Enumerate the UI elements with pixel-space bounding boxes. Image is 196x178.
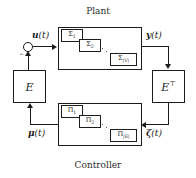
incidence-matrix-label: E [14,80,45,93]
plant-block[interactable]: Σ1 Σ2 Σ|V| [58,27,142,70]
incidence-transpose-base: E [161,80,169,93]
arrow-ET-input [165,64,171,69]
controller-title: Controller [0,160,196,170]
line-corner-to-controller [146,124,169,125]
controller-subsystem-n[interactable]: Π|E| [110,129,137,142]
controller-subsystem-n-label: Π|E| [117,131,129,140]
line-ET-to-corner [168,103,169,124]
controller-subsystem-2-subscript: 2 [91,120,94,125]
line-corner-to-E [30,108,31,125]
arrow-E-input [27,103,33,108]
incidence-transpose-block[interactable]: E⊤ [152,70,185,103]
line-junction-to-plant [33,46,53,47]
controller-subsystem-n-subscript: |E| [123,134,129,139]
line-plant-to-corner [142,46,168,47]
signal-y-arg: (t) [151,30,162,40]
incidence-transpose-label: E⊤ [153,80,184,94]
plant-subsystem-1-subscript: 1 [73,34,76,39]
line-corner-to-ET [168,46,169,65]
plant-subsystem-2-label: Σ2 [86,41,94,50]
signal-mu-arg: (t) [35,128,46,138]
block-diagram-canvas: Plant Controller Σ1 Σ2 Σ|V| Π1 Π2 [0,0,196,178]
controller-subsystem-2-label: Π2 [86,117,95,126]
signal-label-mu: μ(t) [28,128,45,138]
plant-title: Plant [0,6,196,16]
plant-subsystem-2-subscript: 2 [91,44,94,49]
arrow-junction-input [25,51,31,56]
plant-subsystem-1-label: Σ1 [68,31,76,40]
junction-minus-sign: − [19,50,24,57]
line-E-to-junction [28,55,29,70]
controller-subsystem-1-subscript: 1 [73,110,76,115]
arrow-plant-input [52,44,57,50]
controller-subsystem-2[interactable]: Π2 [79,115,101,128]
plant-subsystem-n[interactable]: Σ|V| [110,53,137,66]
plant-subsystem-2[interactable]: Σ2 [79,39,101,52]
signal-mu-symbol: μ [28,128,35,138]
signal-zeta-arg: (t) [151,128,162,138]
plant-subsystem-n-label: Σ|V| [118,55,129,64]
signal-u-arg: (t) [39,30,50,40]
signal-label-zeta: ζ(t) [146,128,162,138]
signal-label-y: y(t) [146,30,162,40]
signal-label-u: u(t) [32,30,49,40]
plant-subsystem-n-subscript: |V| [123,58,129,63]
controller-block[interactable]: Π1 Π2 Π|E| [58,103,142,146]
transpose-superscript: ⊤ [169,80,176,88]
incidence-matrix-block[interactable]: E [13,70,46,103]
controller-subsystem-1-label: Π1 [68,107,77,116]
line-controller-to-corner [30,124,58,125]
